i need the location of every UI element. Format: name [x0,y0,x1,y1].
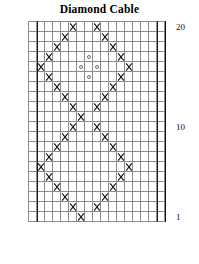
chart-cell [61,162,69,172]
chart-cell [85,22,93,32]
chart-cell [117,52,125,62]
chart-cell [77,192,85,202]
panel-divider [37,21,38,222]
chart-cell [125,122,133,132]
chart-cell [77,92,85,102]
chart-cell [77,142,85,152]
chart-cell [141,52,149,62]
chart-cell [93,112,101,122]
chart-cell [141,132,149,142]
chart-cell [149,192,157,202]
chart-cell [37,162,45,172]
chart-cell [117,182,125,192]
chart-cell [117,152,125,162]
chart-cell [149,182,157,192]
chart-cell [133,142,141,152]
chart-cell [141,142,149,152]
chart-cell [85,162,93,172]
chart-cell [125,72,133,82]
chart-cell [117,112,125,122]
chart-cell [45,172,53,182]
chart-cell [133,202,141,212]
chart-cell [37,202,45,212]
chart-cell [69,82,77,92]
chart-cell [101,202,109,212]
chart-cell [69,182,77,192]
chart-cell [85,42,93,52]
chart-cell [53,152,61,162]
chart-cell [149,112,157,122]
chart-cell [37,92,45,102]
chart-cell [69,72,77,82]
chart-cell [69,52,77,62]
chart-cell [133,22,141,32]
chart-cell [29,172,37,182]
chart-cell [77,102,85,112]
chart-cell [37,72,45,82]
chart-cell [61,192,69,202]
chart-cell [85,192,93,202]
chart-cell [101,42,109,52]
chart-cell [133,212,141,222]
chart-cell [109,82,117,92]
chart-cell [53,132,61,142]
chart-cell [61,72,69,82]
chart-cell [125,132,133,142]
chart-cell [69,22,77,32]
chart-cell [101,22,109,32]
chart-cell [149,202,157,212]
chart-cell [157,92,165,102]
chart-cell [29,52,37,62]
chart-cell [149,32,157,42]
chart-cell [69,102,77,112]
chart-cell [93,132,101,142]
chart-cell [61,122,69,132]
chart-cell [53,82,61,92]
chart-cell [93,202,101,212]
chart-cell [29,72,37,82]
chart-cell [141,102,149,112]
chart-cell [109,42,117,52]
chart-cell [141,92,149,102]
chart-cell [149,172,157,182]
chart-cell [93,162,101,172]
chart-cell [157,72,165,82]
chart-cell [45,52,53,62]
chart-cell [61,92,69,102]
chart-cell [93,82,101,92]
chart-cell [93,52,101,62]
chart-cell [109,162,117,172]
chart-cell [117,142,125,152]
chart-cell [125,152,133,162]
chart-cell [85,62,93,72]
chart-cell [45,72,53,82]
chart-cell [141,62,149,72]
chart-cell [101,92,109,102]
chart-cell [85,92,93,102]
chart-cell [77,212,85,222]
chart-cell [101,102,109,112]
chart-cell [61,202,69,212]
chart-cell [125,52,133,62]
chart-cell [29,112,37,122]
chart-cell [93,32,101,42]
chart-cell [69,202,77,212]
chart-cell [141,152,149,162]
row-number-label: 10 [176,122,185,132]
chart-cell [29,22,37,32]
chart-cell [93,102,101,112]
chart-cell [141,112,149,122]
chart-cell [77,172,85,182]
chart-cell [69,152,77,162]
chart-cell [29,162,37,172]
chart-cell [61,22,69,32]
chart-cell [45,162,53,172]
chart-cell [77,32,85,42]
chart-cell [85,52,93,62]
chart-cell [69,192,77,202]
chart-cell [109,62,117,72]
chart-cell [37,142,45,152]
chart-cell [101,32,109,42]
chart-cell [85,102,93,112]
chart-cell [109,32,117,42]
